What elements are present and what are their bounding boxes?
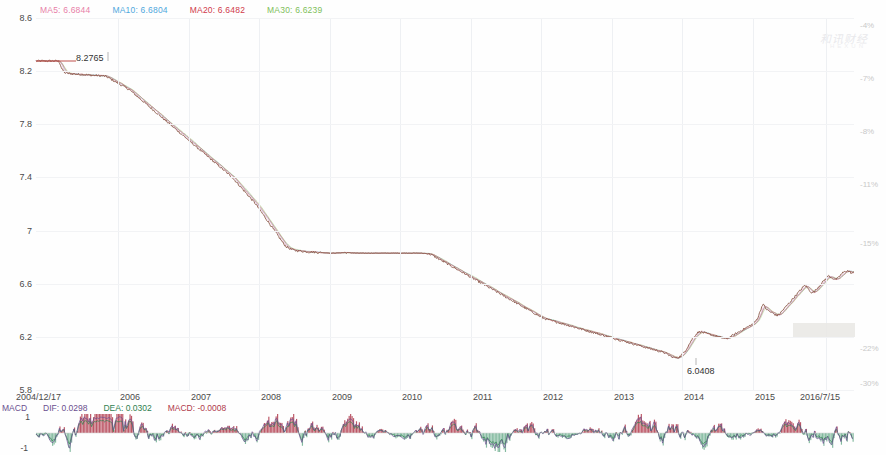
macd-histogram-bar: [454, 419, 455, 433]
macd-histogram-bar: [135, 433, 136, 440]
macd-histogram-bar: [97, 414, 98, 433]
x-tick-label: 2004/12/17: [16, 392, 61, 402]
vertical-gridline: [259, 18, 260, 390]
percent-tick-label: -30%: [860, 380, 886, 388]
macd-series: [36, 412, 854, 454]
macd-histogram-bar: [705, 433, 706, 448]
macd-histogram-bar: [718, 424, 719, 433]
macd-histogram-bar: [638, 415, 639, 433]
horizontal-gridline: [36, 71, 854, 72]
percent-tick-label: -15%: [860, 240, 886, 248]
macd-axis-top-label: 1: [8, 413, 30, 422]
vertical-gridline: [682, 18, 683, 390]
vertical-gridline: [330, 18, 331, 390]
macd-histogram-bar: [492, 433, 493, 448]
macd-histogram-bar: [798, 420, 799, 433]
macd-histogram-bar: [731, 433, 732, 440]
macd-histogram-bar: [99, 414, 100, 433]
vertical-gridline: [541, 18, 542, 390]
macd-histogram-bar: [498, 433, 499, 452]
macd-histogram-bar: [350, 414, 351, 433]
ma5-line: [36, 61, 854, 358]
y-tick-label: 8.6: [2, 14, 32, 23]
price-chart-pane: [36, 18, 854, 390]
macd-histogram-bar: [337, 433, 338, 440]
y-tick-label: 7.8: [2, 120, 32, 129]
percent-tick-label: -8%: [860, 128, 886, 136]
macd-histogram-bar: [790, 421, 791, 433]
y-tick-label: 8.2: [2, 67, 32, 76]
horizontal-gridline: [36, 177, 854, 178]
price-line-series: [36, 18, 854, 390]
horizontal-gridline: [36, 124, 854, 125]
macd-histogram-bar: [129, 414, 130, 433]
date-x-axis: 2004/12/17200620072008200920102011201220…: [0, 390, 886, 404]
macd-histogram-bar: [103, 414, 104, 433]
horizontal-gridline: [36, 337, 854, 338]
macd-histogram-bar: [54, 433, 55, 445]
x-tick-label: 2007: [191, 392, 211, 402]
percent-tick-label: -11%: [860, 181, 886, 189]
macd-dif-line: [36, 417, 853, 449]
vertical-gridline: [471, 18, 472, 390]
macd-histogram-bar: [94, 414, 95, 433]
x-tick-label: 2006: [120, 392, 140, 402]
ma20-legend-item: MA20: 6.6482: [190, 4, 245, 16]
high-price-annotation: 8.2765: [76, 53, 104, 63]
macd-histogram-bar: [397, 433, 398, 437]
vertical-gridline: [189, 18, 190, 390]
x-tick-label: 2011: [473, 392, 492, 402]
macd-histogram-bar: [501, 433, 502, 444]
ma-legend: MA5: 6.6844 MA10: 6.6804 MA20: 6.6482 MA…: [40, 4, 322, 16]
low-price-annotation: 6.0408: [687, 366, 715, 376]
macd-histogram-bar: [490, 433, 491, 447]
vertical-gridline: [118, 18, 119, 390]
macd-histogram-bar: [530, 423, 531, 433]
macd-histogram-bar: [344, 420, 345, 433]
x-tick-label: 2010: [402, 392, 422, 402]
macd-histogram-bar: [52, 433, 53, 446]
price-line: [36, 60, 854, 358]
percent-tick-label: -22%: [860, 345, 886, 353]
y-tick-label: 6.2: [2, 333, 32, 342]
x-tick-label: 2012: [543, 392, 563, 402]
macd-histogram-bar: [671, 424, 672, 433]
macd-histogram-bar: [352, 416, 353, 433]
y-tick-label: 6.6: [2, 280, 32, 289]
ma20-line: [36, 61, 854, 358]
macd-histogram-bar: [105, 414, 106, 433]
ma10-line: [36, 60, 854, 358]
vertical-gridline: [612, 18, 613, 390]
macd-axis-bottom-label: -1: [6, 444, 28, 453]
horizontal-gridline: [36, 284, 854, 285]
vertical-gridline: [400, 18, 401, 390]
x-tick-label: 2014: [684, 392, 704, 402]
macd-histogram-bar: [100, 414, 101, 433]
macd-histogram-bar: [96, 414, 97, 433]
vertical-gridline: [753, 18, 754, 390]
macd-histogram-bar: [86, 414, 87, 433]
x-tick-label: 2009: [332, 392, 352, 402]
macd-histogram-bar: [194, 433, 195, 439]
macd-histogram-bar: [728, 433, 729, 438]
price-band-highlight: [793, 323, 855, 337]
macd-histogram-bar: [853, 433, 854, 442]
macd-histogram-bar: [102, 414, 103, 433]
macd-histogram-bar: [51, 433, 52, 442]
macd-histogram-bar: [426, 426, 427, 433]
ma10-legend-item: MA10: 6.6804: [112, 4, 167, 16]
x-tick-label: 2016/7/15: [800, 392, 840, 402]
macd-histogram-bar: [109, 414, 110, 433]
y-tick-label: 7: [2, 227, 32, 236]
percent-tick-label: -7%: [860, 75, 886, 83]
percent-tick-label: -4%: [860, 22, 886, 30]
x-tick-label: 2015: [755, 392, 775, 402]
macd-histogram-bar: [106, 414, 107, 433]
x-tick-label: 2013: [614, 392, 634, 402]
x-tick-label: 2008: [261, 392, 281, 402]
stock-chart-app: MA5: 6.6844 MA10: 6.6804 MA20: 6.6482 MA…: [0, 0, 886, 455]
macd-histogram-bar: [116, 414, 117, 433]
macd-histogram-bar: [676, 424, 677, 433]
macd-histogram-bar: [232, 428, 233, 433]
macd-histogram-bar: [531, 422, 532, 433]
